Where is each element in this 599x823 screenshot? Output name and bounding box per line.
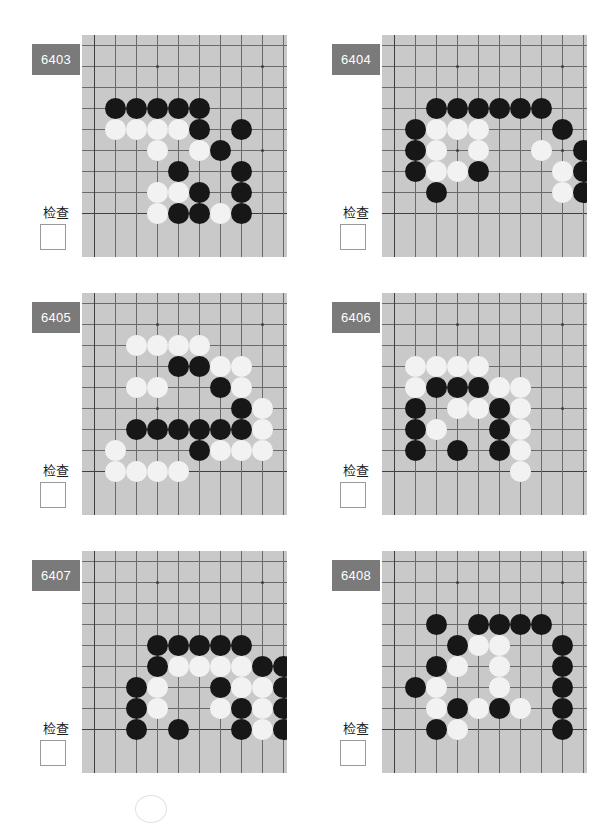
black-stone[interactable] xyxy=(231,161,252,182)
black-stone[interactable] xyxy=(273,698,287,719)
check-checkbox[interactable] xyxy=(40,482,66,508)
black-stone[interactable] xyxy=(189,635,210,656)
white-stone[interactable] xyxy=(447,356,468,377)
black-stone[interactable] xyxy=(426,98,447,119)
check-checkbox[interactable] xyxy=(340,224,366,250)
black-stone[interactable] xyxy=(552,719,573,740)
black-stone[interactable] xyxy=(210,419,231,440)
white-stone[interactable] xyxy=(189,335,210,356)
black-stone[interactable] xyxy=(210,677,231,698)
black-stone[interactable] xyxy=(405,440,426,461)
black-stone[interactable] xyxy=(189,98,210,119)
white-stone[interactable] xyxy=(426,140,447,161)
black-stone[interactable] xyxy=(531,98,552,119)
white-stone[interactable] xyxy=(252,698,273,719)
black-stone[interactable] xyxy=(489,698,510,719)
white-stone[interactable] xyxy=(168,182,189,203)
black-stone[interactable] xyxy=(510,98,531,119)
white-stone[interactable] xyxy=(405,377,426,398)
black-stone[interactable] xyxy=(510,614,531,635)
black-stone[interactable] xyxy=(189,419,210,440)
black-stone[interactable] xyxy=(189,440,210,461)
white-stone[interactable] xyxy=(210,698,231,719)
white-stone[interactable] xyxy=(147,461,168,482)
black-stone[interactable] xyxy=(105,98,126,119)
white-stone[interactable] xyxy=(231,377,252,398)
white-stone[interactable] xyxy=(168,656,189,677)
black-stone[interactable] xyxy=(147,419,168,440)
white-stone[interactable] xyxy=(468,698,489,719)
white-stone[interactable] xyxy=(189,140,210,161)
black-stone[interactable] xyxy=(189,182,210,203)
black-stone[interactable] xyxy=(468,614,489,635)
black-stone[interactable] xyxy=(426,719,447,740)
white-stone[interactable] xyxy=(231,356,252,377)
black-stone[interactable] xyxy=(468,377,489,398)
black-stone[interactable] xyxy=(405,161,426,182)
black-stone[interactable] xyxy=(168,161,189,182)
white-stone[interactable] xyxy=(147,140,168,161)
black-stone[interactable] xyxy=(552,698,573,719)
white-stone[interactable] xyxy=(447,161,468,182)
black-stone[interactable] xyxy=(405,419,426,440)
white-stone[interactable] xyxy=(252,677,273,698)
white-stone[interactable] xyxy=(426,419,447,440)
black-stone[interactable] xyxy=(231,719,252,740)
black-stone[interactable] xyxy=(231,119,252,140)
black-stone[interactable] xyxy=(426,656,447,677)
white-stone[interactable] xyxy=(147,335,168,356)
check-checkbox[interactable] xyxy=(340,482,366,508)
black-stone[interactable] xyxy=(189,119,210,140)
white-stone[interactable] xyxy=(489,635,510,656)
black-stone[interactable] xyxy=(168,719,189,740)
black-stone[interactable] xyxy=(210,140,231,161)
black-stone[interactable] xyxy=(210,635,231,656)
black-stone[interactable] xyxy=(126,719,147,740)
black-stone[interactable] xyxy=(231,698,252,719)
white-stone[interactable] xyxy=(168,461,189,482)
white-stone[interactable] xyxy=(231,656,252,677)
black-stone[interactable] xyxy=(231,398,252,419)
white-stone[interactable] xyxy=(210,203,231,224)
black-stone[interactable] xyxy=(147,635,168,656)
white-stone[interactable] xyxy=(231,440,252,461)
white-stone[interactable] xyxy=(405,356,426,377)
white-stone[interactable] xyxy=(189,656,210,677)
white-stone[interactable] xyxy=(426,161,447,182)
black-stone[interactable] xyxy=(489,614,510,635)
black-stone[interactable] xyxy=(168,419,189,440)
check-checkbox[interactable] xyxy=(340,740,366,766)
white-stone[interactable] xyxy=(447,719,468,740)
black-stone[interactable] xyxy=(489,419,510,440)
black-stone[interactable] xyxy=(468,161,489,182)
white-stone[interactable] xyxy=(105,440,126,461)
white-stone[interactable] xyxy=(489,377,510,398)
black-stone[interactable] xyxy=(489,98,510,119)
white-stone[interactable] xyxy=(510,461,531,482)
black-stone[interactable] xyxy=(126,98,147,119)
black-stone[interactable] xyxy=(447,98,468,119)
white-stone[interactable] xyxy=(510,419,531,440)
white-stone[interactable] xyxy=(252,440,273,461)
white-stone[interactable] xyxy=(426,356,447,377)
white-stone[interactable] xyxy=(126,461,147,482)
black-stone[interactable] xyxy=(126,698,147,719)
black-stone[interactable] xyxy=(273,719,287,740)
white-stone[interactable] xyxy=(147,377,168,398)
white-stone[interactable] xyxy=(426,677,447,698)
white-stone[interactable] xyxy=(252,398,273,419)
black-stone[interactable] xyxy=(168,98,189,119)
black-stone[interactable] xyxy=(447,377,468,398)
white-stone[interactable] xyxy=(531,140,552,161)
white-stone[interactable] xyxy=(510,698,531,719)
white-stone[interactable] xyxy=(210,356,231,377)
white-stone[interactable] xyxy=(552,161,573,182)
white-stone[interactable] xyxy=(426,119,447,140)
white-stone[interactable] xyxy=(468,119,489,140)
black-stone[interactable] xyxy=(405,677,426,698)
black-stone[interactable] xyxy=(489,440,510,461)
white-stone[interactable] xyxy=(447,119,468,140)
white-stone[interactable] xyxy=(147,119,168,140)
black-stone[interactable] xyxy=(189,356,210,377)
white-stone[interactable] xyxy=(468,398,489,419)
